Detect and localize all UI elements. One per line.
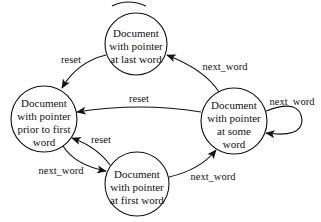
edge-some-self-loop — [266, 106, 302, 134]
state-last-line-2: with pointer — [109, 40, 163, 52]
state-first-line-3: at first word — [110, 194, 164, 206]
state-diagram: reset reset reset next_word next_word ne… — [0, 0, 321, 222]
state-prior-line-4: word — [33, 136, 56, 148]
state-at-some-word: Document with pointer at some word — [201, 88, 267, 154]
label-prior-to-first: next_word — [39, 165, 85, 176]
state-first-line-1: Document — [114, 168, 160, 180]
state-prior-line-1: Document — [21, 97, 67, 109]
label-last-to-prior: reset — [61, 54, 81, 65]
state-some-line-2: with pointer — [207, 112, 261, 124]
state-some-line-1: Document — [211, 99, 257, 111]
label-some-self-loop: next_word — [270, 96, 316, 107]
label-some-to-last: next_word — [203, 61, 249, 72]
state-some-line-3: at some — [217, 125, 251, 137]
state-last-line-3: at last word — [110, 53, 162, 65]
state-prior-line-3: prior to first — [17, 123, 70, 135]
label-first-to-some: next_word — [191, 171, 237, 182]
label-some-to-prior: reset — [129, 93, 149, 104]
state-at-last-word: Document with pointer at last word — [105, 13, 167, 75]
label-first-to-prior: reset — [91, 134, 111, 145]
state-some-line-4: word — [223, 138, 246, 150]
state-last-line-1: Document — [113, 27, 159, 39]
state-at-first-word: Document with pointer at first word — [105, 152, 169, 216]
state-prior-to-first-word: Document with pointer prior to first wor… — [11, 86, 77, 152]
partial-circle-arc — [112, 2, 146, 6]
edge-some-to-prior — [77, 107, 201, 112]
state-first-line-2: with pointer — [110, 181, 164, 193]
state-prior-line-2: with pointer — [17, 110, 71, 122]
